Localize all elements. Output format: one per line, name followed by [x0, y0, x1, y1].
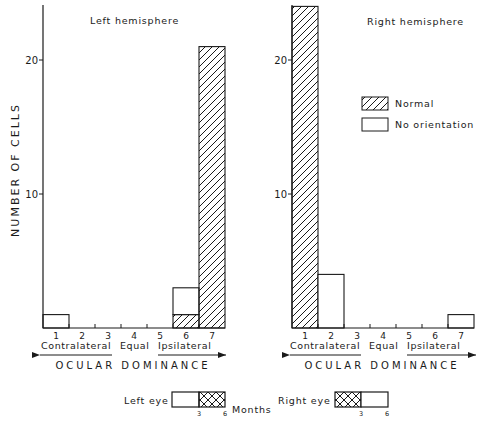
right-eye-closed-period: [335, 392, 361, 407]
y-axis-label: NUMBER OF CELLS: [9, 103, 22, 237]
right-eye-label: Right eye: [278, 395, 331, 406]
left-y-tick-label: 10: [25, 189, 38, 200]
legend: Normal No orientation: [362, 97, 474, 131]
left-group-equal: Equal: [120, 340, 150, 351]
left-chart-title: Left hemisphere: [90, 15, 179, 26]
right-bar-cat2-no-orientation: [318, 274, 344, 328]
legend-swatch-normal: [362, 97, 388, 110]
right-eye-tick-6: 6: [385, 410, 389, 418]
left-eye-closed-period: [199, 392, 225, 407]
left-eye-open-period: [172, 392, 199, 407]
right-y-tick-label: 10: [274, 189, 287, 200]
right-x-axis-label: OCULAR DOMINANCE: [304, 360, 459, 371]
right-hemisphere-chart: Right hemisphere 1020 1234567 Contralate…: [274, 5, 476, 371]
left-bar-cat6-normal: [173, 315, 199, 328]
left-x-axis-label: OCULAR DOMINANCE: [55, 360, 210, 371]
left-bars: [43, 47, 225, 328]
right-y-tick-label: 20: [274, 55, 287, 66]
right-eye-tick-3: 3: [359, 410, 363, 418]
right-group-equal: Equal: [369, 340, 399, 351]
left-eye-tick-3: 3: [197, 410, 201, 418]
left-bar-cat7-normal: [199, 47, 225, 328]
left-group-contralateral: Contralateral: [41, 340, 111, 351]
legend-swatch-no-orientation: [362, 118, 388, 131]
left-group-ipsilateral: Ipsilateral: [158, 340, 211, 351]
right-group-ipsilateral: Ipsilateral: [407, 340, 460, 351]
right-chart-title: Right hemisphere: [367, 16, 464, 27]
legend-label-no-orientation: No orientation: [395, 119, 474, 130]
rearing-key: Left eye 3 6 Months Right eye 3 6: [124, 392, 389, 418]
left-eye-tick-6: 6: [223, 410, 227, 418]
left-bar-cat1-no-orientation: [43, 315, 69, 328]
legend-label-normal: Normal: [395, 98, 434, 109]
left-hemisphere-chart: Left hemisphere 1020 1234567 Contralater…: [25, 5, 226, 371]
right-bar-cat7-no-orientation: [448, 315, 474, 328]
right-bar-cat1-normal: [292, 6, 318, 328]
right-group-contralateral: Contralateral: [290, 340, 360, 351]
right-bars: [292, 6, 474, 328]
left-bar-cat6-no-orientation: [173, 288, 199, 315]
months-label: Months: [232, 404, 272, 415]
ocular-dominance-figure: NUMBER OF CELLS Left hemisphere 1020 123…: [0, 0, 483, 428]
left-eye-label: Left eye: [124, 395, 169, 406]
left-y-tick-label: 20: [25, 55, 38, 66]
right-eye-open-period: [361, 392, 388, 407]
